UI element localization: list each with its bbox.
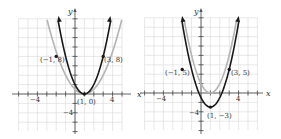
right-x-tick-4: 4 (236, 95, 241, 103)
right-x-label: x (266, 89, 271, 98)
right-vertex-point (209, 105, 212, 108)
left-curve-arrow-icon (57, 16, 62, 22)
left-point-label-2: (3, 8) (104, 56, 123, 64)
left-y-tick-neg4: −4 (63, 109, 74, 117)
right-curve-arrow-icon (235, 16, 240, 22)
right-point-label-1: (−1, 5) (165, 69, 190, 77)
left-curve-arrow-icon (107, 16, 112, 22)
left-vertex-point (83, 92, 86, 95)
right-vertex-label: (1, −3) (207, 112, 232, 120)
left-y-arrow-icon (73, 8, 76, 12)
left-point-label-1: (−1, 8) (40, 56, 65, 64)
left-x-label: x (137, 90, 142, 99)
right-graph: y −4 4 −4 (−1, 5) (3, 5) (1, −3) x (140, 7, 271, 134)
left-graph: y −4 4 −4 (−1, 8) (3, 8) (1, 0) x (12, 7, 142, 134)
right-x-tick-neg4: −4 (156, 95, 167, 103)
left-x-tick-neg4: −4 (30, 96, 41, 104)
right-curve-arrow-icon (181, 16, 186, 22)
right-y-tick-neg4: −4 (189, 109, 200, 117)
right-y-arrow-icon (199, 8, 202, 12)
right-y-label: y (193, 7, 199, 16)
right-point-label-2: (3, 5) (231, 69, 250, 77)
left-y-label: y (67, 7, 73, 16)
left-vertex-label: (1, 0) (77, 98, 96, 106)
left-x-tick-4: 4 (110, 96, 115, 104)
chart-canvas: y −4 4 −4 (−1, 8) (3, 8) (1, 0) x y −4 4… (0, 0, 281, 139)
